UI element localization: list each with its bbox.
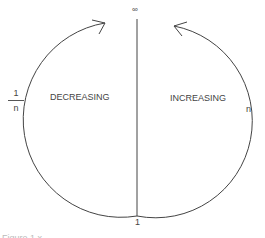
decreasing-label: DECREASING xyxy=(50,92,110,102)
infinity-label: ∞ xyxy=(132,5,138,14)
numerator: 1 xyxy=(8,88,24,98)
figure-caption: Figure 1.x xyxy=(2,233,42,238)
fraction-bar xyxy=(8,100,24,101)
circular-scale-diagram xyxy=(0,0,265,238)
increasing-arc xyxy=(137,26,252,218)
decreasing-arrowhead-icon xyxy=(92,20,105,34)
reciprocal-label: 1 n xyxy=(8,88,24,113)
one-label: 1 xyxy=(135,217,140,227)
denominator: n xyxy=(8,103,24,113)
increasing-label: INCREASING xyxy=(170,93,226,103)
decreasing-arc xyxy=(23,23,137,217)
n-label: n xyxy=(246,104,251,114)
